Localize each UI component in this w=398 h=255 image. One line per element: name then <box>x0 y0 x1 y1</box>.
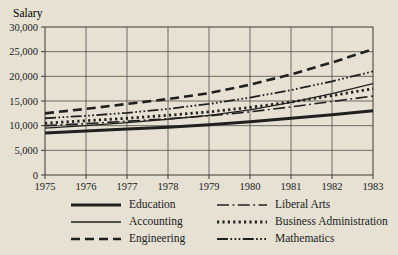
legend-item-mathematics: Mathematics <box>216 230 388 247</box>
legend-item-engineering: Engineering <box>70 230 212 247</box>
legend-item-education: Education <box>70 196 212 213</box>
y-tick-label: 30,000 <box>9 22 38 33</box>
legend-column: EducationAccountingEngineering <box>70 196 212 247</box>
x-tick-label: 1976 <box>76 181 97 192</box>
legend-line-sample <box>216 201 268 209</box>
legend-label: Liberal Arts <box>275 199 330 211</box>
x-tick-label: 1981 <box>281 181 302 192</box>
legend-label: Business Administration <box>275 216 388 228</box>
legend-item-business-administration: Business Administration <box>216 213 388 230</box>
legend-label: Education <box>129 199 176 211</box>
legend-line-sample <box>70 201 122 209</box>
y-tick-label: 20,000 <box>9 71 38 82</box>
y-tick-label: 0 <box>33 170 38 181</box>
axis-tick-labels: 30,00025,00020,00015,00010,0005,00001975… <box>9 22 383 193</box>
x-tick-label: 1977 <box>117 181 138 192</box>
legend-label: Accounting <box>129 216 183 228</box>
x-tick-label: 1980 <box>240 181 261 192</box>
legend-item-accounting: Accounting <box>70 213 212 230</box>
y-axis-title: Salary <box>13 7 43 20</box>
salary-line-chart: Salary 30,00025,00020,00015,00010,0005,0… <box>0 0 398 255</box>
y-tick-label: 25,000 <box>9 46 38 57</box>
legend-column: Liberal ArtsBusiness AdministrationMathe… <box>216 196 388 247</box>
legend-line-sample <box>216 218 268 226</box>
legend-line-sample <box>216 235 268 243</box>
legend: EducationAccountingEngineeringLiberal Ar… <box>0 196 398 247</box>
y-tick-label: 10,000 <box>9 120 38 131</box>
legend-line-sample <box>70 218 122 226</box>
legend-line-sample <box>70 235 122 243</box>
legend-label: Mathematics <box>275 233 334 245</box>
y-tick-label: 15,000 <box>9 96 38 107</box>
x-tick-label: 1983 <box>363 181 384 192</box>
plot-area: Salary 30,00025,00020,00015,00010,0005,0… <box>0 0 398 196</box>
x-tick-label: 1979 <box>199 181 220 192</box>
legend-item-liberal-arts: Liberal Arts <box>216 196 388 213</box>
x-tick-label: 1982 <box>322 181 343 192</box>
x-tick-label: 1978 <box>158 181 179 192</box>
x-tick-label: 1975 <box>35 181 56 192</box>
legend-label: Engineering <box>129 233 185 245</box>
y-tick-label: 5,000 <box>14 145 38 156</box>
